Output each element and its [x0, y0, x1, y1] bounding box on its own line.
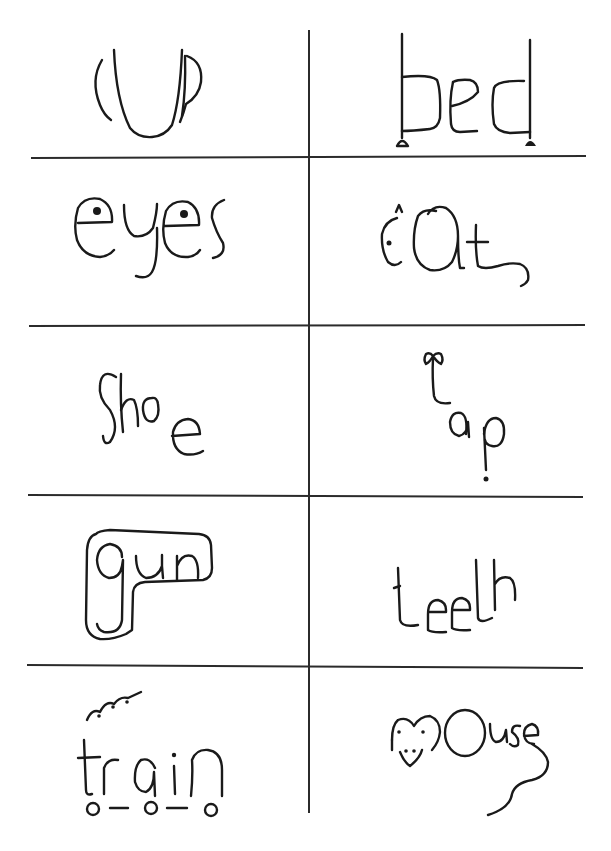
card-mouse: mouse: [309, 665, 611, 851]
mouse-illustration-icon: [0, 0, 611, 851]
worksheet-page: cup bed eyes: [0, 0, 611, 851]
